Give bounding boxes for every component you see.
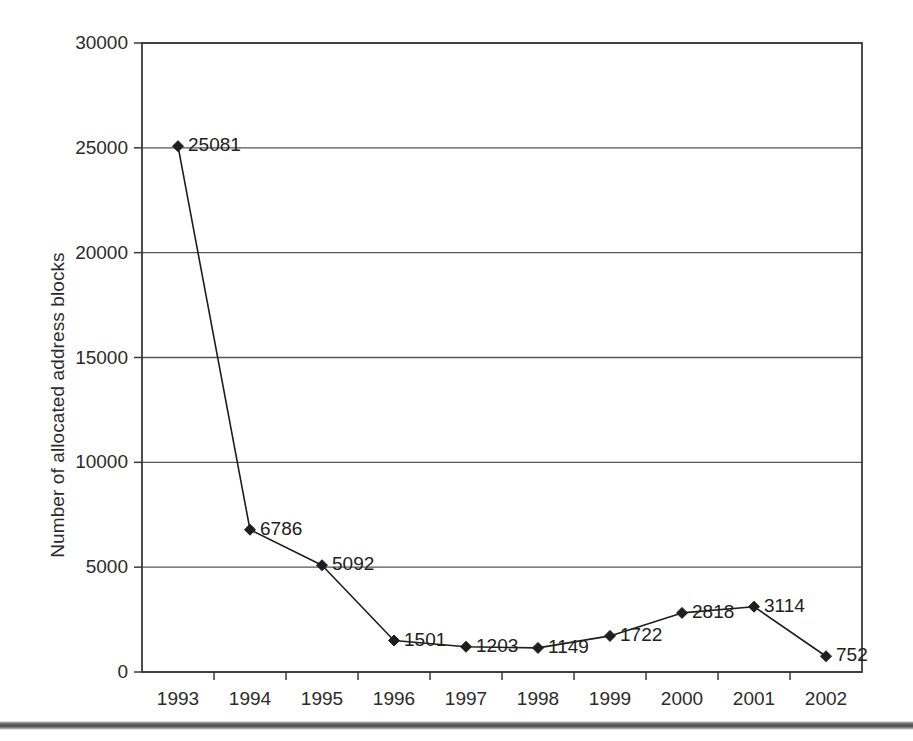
data-point-label: 1501	[404, 629, 446, 651]
data-point-marker[interactable]	[461, 641, 472, 652]
data-point-marker[interactable]	[677, 607, 688, 618]
y-axis-ticks	[134, 43, 142, 672]
data-point-label: 2818	[692, 601, 734, 623]
chart-page: Number of allocated address blocks 05000…	[0, 0, 913, 741]
y-axis-tick-label: 30000	[75, 32, 128, 54]
x-axis-tick-label: 1997	[445, 688, 487, 710]
x-axis-tick-label: 1996	[373, 688, 415, 710]
data-point-label: 3114	[764, 595, 805, 617]
x-axis-ticks	[214, 672, 790, 680]
y-axis-title: Number of allocated address blocks	[47, 165, 69, 645]
data-point-marker[interactable]	[245, 524, 256, 535]
x-axis-tick-label: 2000	[661, 688, 703, 710]
y-axis-tick-label: 5000	[86, 556, 128, 578]
data-point-label: 6786	[260, 518, 302, 540]
x-axis-tick-label: 2001	[733, 688, 775, 710]
y-axis-tick-label: 20000	[75, 242, 128, 264]
chart-canvas	[0, 0, 913, 741]
series-line	[178, 146, 826, 656]
series-markers	[173, 141, 832, 662]
y-axis-tick-label: 15000	[75, 347, 128, 369]
data-point-marker[interactable]	[533, 642, 544, 653]
data-point-label: 5092	[332, 553, 374, 575]
data-point-marker[interactable]	[821, 651, 832, 662]
y-axis-tick-label: 0	[117, 661, 128, 683]
data-point-marker[interactable]	[749, 601, 760, 612]
y-axis-tick-label: 25000	[75, 137, 128, 159]
x-axis-tick-label: 1999	[589, 688, 631, 710]
data-point-label: 25081	[188, 134, 241, 156]
data-point-marker[interactable]	[173, 141, 184, 152]
data-point-label: 1149	[548, 636, 589, 658]
data-point-marker[interactable]	[605, 630, 616, 641]
scan-edge-artifact	[0, 721, 913, 730]
y-axis-tick-label: 10000	[75, 451, 128, 473]
x-axis-tick-label: 1994	[229, 688, 271, 710]
x-axis-tick-label: 2002	[805, 688, 847, 710]
series-polyline	[178, 146, 826, 656]
data-point-label: 1722	[620, 624, 662, 646]
x-axis-tick-label: 1993	[157, 688, 199, 710]
gridlines	[142, 43, 862, 672]
data-point-label: 1203	[476, 635, 518, 657]
line-chart-figure: Number of allocated address blocks 05000…	[0, 0, 913, 741]
data-point-label: 752	[836, 644, 868, 666]
x-axis-tick-label: 1995	[301, 688, 343, 710]
x-axis-tick-label: 1998	[517, 688, 559, 710]
